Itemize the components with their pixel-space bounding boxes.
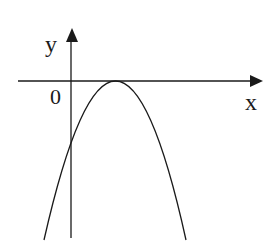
x-axis-label: x	[245, 89, 257, 115]
y-axis-label: y	[45, 31, 57, 57]
parabola-diagram: y x 0	[0, 0, 278, 251]
y-axis-arrow-icon	[66, 28, 78, 42]
parabola-curve	[44, 81, 186, 240]
x-axis-arrow-icon	[250, 75, 263, 87]
origin-label: 0	[50, 84, 61, 109]
